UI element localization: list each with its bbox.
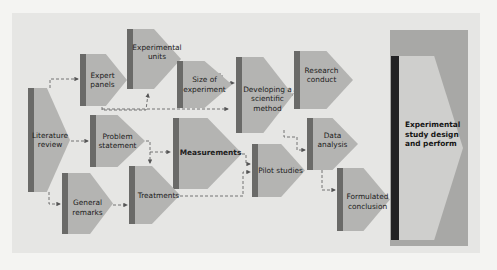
summary-panel-bar xyxy=(391,56,399,240)
node-label: Research conduct xyxy=(300,41,343,109)
node-label: Measurements xyxy=(179,116,242,189)
node-measurements: Measurements xyxy=(173,118,242,189)
node-developing-scientific-method: Developing a scientific method xyxy=(236,57,293,133)
node-problem-statement: Problem statement xyxy=(90,115,145,167)
node-label: Formulated conclusion xyxy=(343,172,392,231)
node-experimental-units: Experimental units xyxy=(127,29,181,89)
node-formulated-conclusion: Formulated conclusion xyxy=(337,168,390,231)
node-general-remarks: General remarks xyxy=(62,173,113,234)
node-size-of-experiment: Size of experiment xyxy=(177,61,232,108)
node-label: Pilot studies xyxy=(258,144,303,197)
node-data-analysis: Data analysis xyxy=(307,118,358,170)
node-pilot-studies: Pilot studies xyxy=(252,144,305,197)
node-label: Expert panels xyxy=(86,54,119,106)
node-label: Data analysis xyxy=(313,110,352,170)
node-label: Treatments xyxy=(135,168,182,224)
node-label: Experimental units xyxy=(133,15,181,89)
summary-panel-label: Experimental study design and perform xyxy=(405,120,465,149)
node-label: Size of experiment xyxy=(183,61,226,108)
node-label: General remarks xyxy=(68,181,107,234)
node-label: Developing a scientific method xyxy=(242,65,293,133)
node-label: Problem statement xyxy=(96,115,139,167)
node-treatments: Treatments xyxy=(129,166,180,224)
node-expert-panels: Expert panels xyxy=(80,54,127,106)
node-research-conduct: Research conduct xyxy=(294,51,353,109)
